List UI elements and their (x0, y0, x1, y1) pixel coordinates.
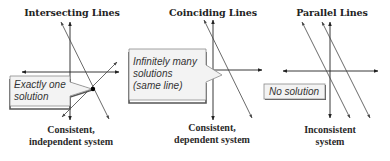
note-line: solution (14, 91, 66, 103)
title-parallel-lines: Parallel Lines (296, 7, 368, 18)
title-intersecting-lines: Intersecting Lines (24, 7, 120, 18)
caption-consistent-dependent: Consistent, dependent system (174, 122, 250, 146)
caption-line: Inconsistent (304, 124, 356, 136)
parallel-line-2 (322, 22, 370, 118)
caption-line: dependent system (174, 134, 250, 146)
note-line: Exactly one (14, 79, 66, 91)
intersection-point (91, 87, 95, 91)
note-no-solution: No solution (269, 86, 319, 98)
note-line: Infinitely many (133, 56, 197, 68)
title-coinciding-lines: Coinciding Lines (169, 7, 257, 18)
parallel-line-1 (302, 22, 350, 118)
panel-intersecting-graph (10, 22, 119, 120)
caption-inconsistent: Inconsistent system (304, 124, 356, 148)
note-infinitely-many-solutions: Infinitely many solutions (same line) (133, 56, 197, 92)
caption-consistent-independent: Consistent, independent system (29, 124, 113, 148)
note-exactly-one-solution: Exactly one solution (14, 79, 66, 103)
caption-line: Consistent, (29, 124, 113, 136)
note-line: No solution (269, 86, 319, 98)
note-line: (same line) (133, 80, 197, 92)
caption-line: independent system (29, 136, 113, 148)
linear-systems-diagram: Intersecting Lines Coinciding Lines Para… (0, 0, 390, 161)
caption-line: Consistent, (174, 122, 250, 134)
caption-line: system (304, 136, 356, 148)
note-line: solutions (133, 68, 197, 80)
panel-parallel-graph (264, 22, 378, 118)
